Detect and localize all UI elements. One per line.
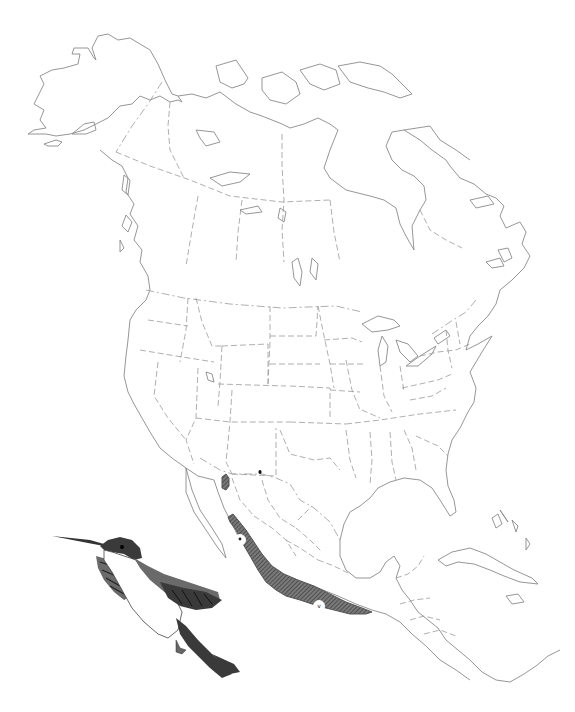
bird-foot (176, 640, 186, 654)
hummingbird-illustration (52, 536, 240, 678)
great-lakes (362, 316, 400, 332)
range-main-polygon (228, 514, 372, 614)
range-dot-new-mexico (258, 470, 261, 474)
range-map: v (0, 0, 575, 712)
hudson-bay-coast (324, 124, 530, 350)
alaska-coast (28, 34, 182, 136)
range-arizona-outlier (222, 474, 229, 490)
svg-text:v: v (317, 602, 321, 609)
jamaica (506, 594, 524, 604)
baja-coast (186, 468, 226, 558)
political-borders (116, 82, 476, 636)
bird-eye (120, 545, 124, 549)
species-range: v (222, 470, 372, 614)
range-marker-north (235, 535, 246, 546)
range-marker-south: v (314, 601, 325, 612)
arctic-coast (178, 92, 330, 128)
bird-tail (176, 618, 232, 678)
bird-bill (52, 536, 104, 546)
cuba (438, 548, 538, 584)
